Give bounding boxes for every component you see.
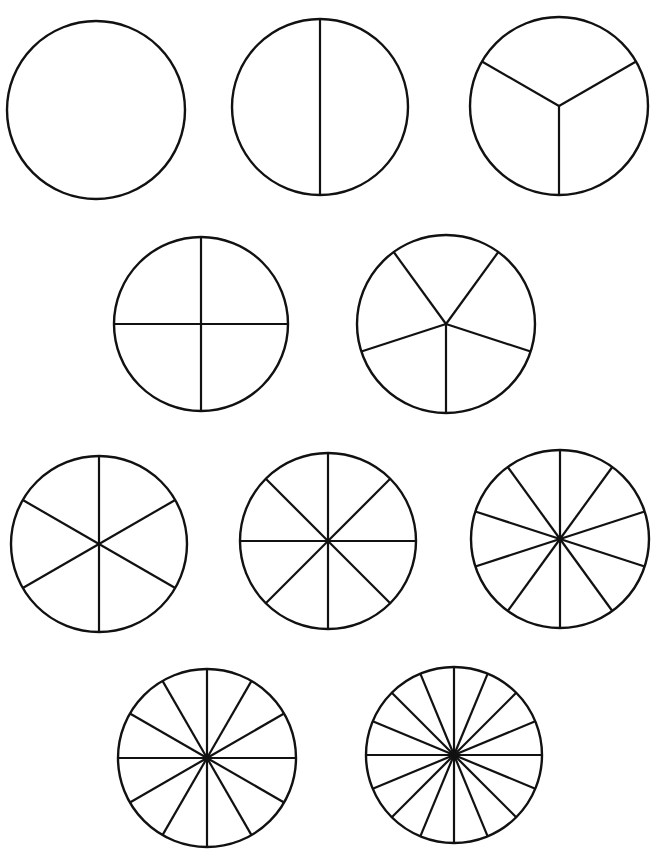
center-hub (451, 752, 458, 759)
fraction-circle-fifths (357, 235, 535, 413)
circle-outline (7, 21, 185, 199)
fraction-circle-fourths (114, 237, 288, 411)
fraction-circle-thirds (470, 17, 648, 195)
center-hub (558, 537, 562, 541)
center-hub (326, 539, 330, 543)
fraction-circle-twelfths (118, 669, 296, 847)
fraction-circle-whole (7, 21, 185, 199)
fraction-circle-sixteenths (366, 667, 542, 843)
center-hub (204, 755, 211, 762)
fraction-circles-diagram (0, 0, 666, 861)
fraction-circle-eighths (240, 453, 416, 629)
fraction-circle-sixths (11, 456, 187, 632)
center-hub (97, 542, 101, 546)
fraction-circle-halves (232, 19, 408, 195)
fraction-circle-tenths (471, 450, 649, 628)
